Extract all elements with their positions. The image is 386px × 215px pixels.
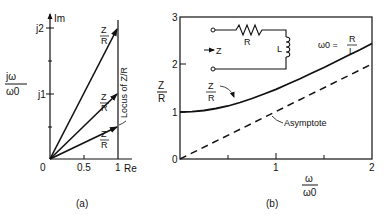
formula-den: L [349,46,354,56]
asymptote-line [180,64,372,159]
b-ytick-0: 0 [172,154,178,165]
b-xlabel-den: ω0 [303,187,317,198]
caption-b: (b) [266,198,278,209]
axis-im-label: Im [54,13,65,24]
y-label-den: ω0 [6,86,20,97]
rl-circuit: R L Z [204,25,290,71]
caption-a: (a) [76,198,88,209]
xtick-0: 0 [40,162,46,173]
figure-canvas: j2 j1 0 0.5 1 Im Re jω ω0 Z R Z R Z R Lo… [0,0,386,215]
panel-a: j2 j1 0 0.5 1 Im Re jω ω0 Z R Z R Z R Lo… [5,13,137,209]
resistor-label: R [244,37,251,47]
inductor [286,37,290,57]
y-label-num: jω [5,71,16,82]
b-xlabel-num: ω [305,173,313,184]
ytick-j1: j1 [37,89,46,100]
b-ytick-3: 3 [172,12,178,23]
asymptote-label: Asymptote [284,118,327,128]
ytick-j2: j2 [35,23,44,34]
curve-label-num: Z [208,81,214,91]
vec1-label-num: Z [101,92,107,102]
formula-num: R [349,34,356,44]
b-ylabel-den: R [158,93,165,104]
formula-lhs: ω0 = [318,40,338,50]
panel-b: 3 2 1 0 1 2 Z R ω ω0 Z R Asymptote [157,12,375,209]
b-ylabel-num: Z [158,80,164,91]
xtick-1: 1 [115,162,121,173]
figure: j2 j1 0 0.5 1 Im Re jω ω0 Z R Z R Z R Lo… [0,0,386,215]
curve-label-den: R [208,93,215,103]
vec1-label-den: R [101,103,108,113]
axis-re-label: Re [124,163,137,174]
inductor-label: L [277,44,282,54]
vechalf-label-den: R [101,140,108,150]
b-ytick-2: 2 [172,59,178,70]
impedance-label: Z [216,46,222,56]
vec2-label-den: R [101,36,108,46]
b-xtick-1: 1 [273,162,279,173]
vec2-label-num: Z [101,25,107,35]
resistor [215,25,286,37]
b-ytick-1: 1 [172,107,178,118]
xtick-0.5: 0.5 [77,162,91,173]
vechalf-label-num: Z [101,129,107,139]
b-xtick-2: 2 [369,162,375,173]
locus-label: Locus of Z/R [119,66,129,118]
